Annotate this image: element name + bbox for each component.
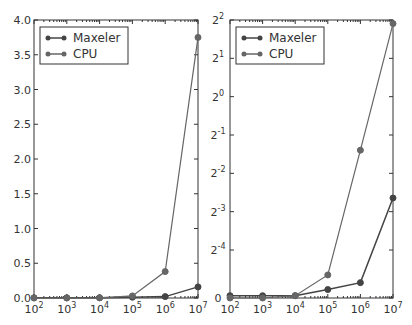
y-tick-label: 2.5 [14,118,32,131]
data-point [97,295,103,301]
y-tick-label: 2.0 [14,153,32,166]
y-tick-label: 3.0 [14,84,32,97]
data-point [195,284,201,290]
data-point [292,293,298,299]
y-tick-label: 1.5 [14,188,32,201]
data-point [195,34,201,40]
data-point [162,294,168,300]
data-point [162,269,168,275]
y-tick-label: 2-3 [211,204,226,219]
x-tick-label: 104 [286,301,305,316]
legend-label: CPU [73,47,97,61]
legend-label: Maxeler [73,31,121,45]
legend: MaxelerCPU [40,27,128,64]
right-chart: 1021031041051061072221202-12-22-32-40Max… [211,12,403,316]
data-point [227,295,233,301]
data-point [390,21,396,27]
x-tick-label: 106 [156,301,175,316]
data-point [129,293,135,299]
data-point [357,280,363,286]
left-chart: 1021031041051061070.00.51.01.52.02.53.03… [14,14,208,316]
y-tick-label: 21 [212,50,224,65]
legend-label: Maxeler [269,31,317,45]
y-tick-label: 20 [212,89,224,104]
x-tick-label: 107 [188,301,207,316]
data-point [31,295,37,301]
x-tick-label: 105 [318,301,337,316]
y-tick-label: 3.5 [14,49,32,62]
y-tick-label: 2-4 [211,242,226,257]
y-tick-label: 4.0 [14,14,32,27]
x-tick-label: 103 [253,301,272,316]
y-tick-label: 22 [212,12,224,27]
data-point [357,147,363,153]
data-point [260,295,266,301]
y-tick-label: 1.0 [14,223,32,236]
data-point [325,287,331,293]
x-tick-label: 104 [90,301,109,316]
x-tick-label: 105 [123,301,142,316]
x-tick-label: 103 [57,301,76,316]
data-point [64,295,70,301]
x-tick-label: 102 [220,301,239,316]
data-point [325,272,331,278]
y-tick-label: 2-2 [211,165,226,180]
legend-label: CPU [269,47,293,61]
x-tick-label: 107 [383,301,402,316]
figure: 1021031041051061070.00.51.01.52.02.53.03… [0,0,412,325]
y-tick-label: 0.5 [14,257,32,270]
x-tick-label: 106 [351,301,370,316]
legend: MaxelerCPU [236,27,324,64]
y-tick-label: 0 [215,292,222,305]
y-tick-label: 2-1 [211,127,226,142]
y-tick-label: 0.0 [14,292,32,305]
data-point [390,195,396,201]
